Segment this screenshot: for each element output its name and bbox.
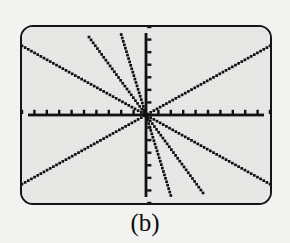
y-axis (145, 33, 148, 197)
calculator-screen-bezel (20, 25, 272, 205)
figure-caption: (b) (0, 204, 290, 242)
graph-plot (22, 27, 270, 203)
figure-container: (b) (0, 0, 290, 243)
